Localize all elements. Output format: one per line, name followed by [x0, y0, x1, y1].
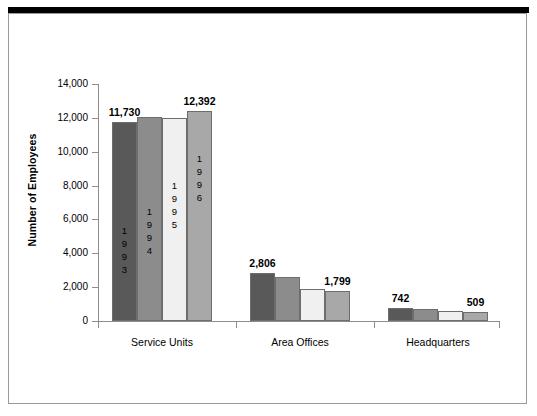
- bar-year-label-1993: 1993: [113, 224, 136, 276]
- value-label-area-offices-1996: 1,799: [308, 275, 368, 287]
- y-axis-tick: [92, 186, 99, 187]
- value-label-headquarters-1996: 509: [446, 296, 506, 308]
- bar-headquarters-1995[interactable]: [438, 311, 463, 321]
- bar-service-units-1993[interactable]: 1993: [112, 122, 137, 321]
- bar-service-units-1996[interactable]: 1996: [187, 111, 212, 321]
- value-label-service-units-1993: 11,730: [95, 106, 155, 118]
- x-axis-tick: [236, 321, 237, 328]
- year-digit: 9: [113, 237, 136, 250]
- bar-year-label-1996: 1996: [188, 152, 211, 204]
- category-label-headquarters: Headquarters: [368, 336, 508, 348]
- category-label-area-offices: Area Offices: [230, 336, 370, 348]
- bar-area-offices-1995[interactable]: [300, 289, 325, 321]
- year-digit: 9: [163, 192, 186, 205]
- bar-headquarters-1996[interactable]: [463, 312, 488, 321]
- y-axis-tick-label-text: 12,000: [57, 113, 88, 123]
- y-axis-tick-label: 12,000: [34, 113, 88, 123]
- year-digit: 1: [138, 205, 161, 218]
- y-axis-tick: [92, 287, 99, 288]
- bar-headquarters-1994[interactable]: [413, 309, 438, 321]
- year-digit: 9: [113, 250, 136, 263]
- year-digit: 9: [188, 165, 211, 178]
- year-digit: 4: [138, 244, 161, 257]
- y-axis-tick-label: 8,000: [34, 181, 88, 191]
- bar-year-label-1994: 1994: [138, 205, 161, 257]
- bar-service-units-1994[interactable]: 1994: [137, 117, 162, 321]
- bar-service-units-1995[interactable]: 1995: [162, 118, 187, 321]
- value-label-area-offices-1993: 2,806: [233, 257, 293, 269]
- x-axis-tick: [499, 321, 500, 328]
- bar-year-label-1995: 1995: [163, 179, 186, 231]
- year-digit: 9: [188, 178, 211, 191]
- year-digit: 9: [138, 218, 161, 231]
- value-label-headquarters-1993: 742: [371, 292, 431, 304]
- year-digit: 1: [113, 224, 136, 237]
- chart-figure: Number of Employees 14,00012,00010,0008,…: [0, 0, 537, 416]
- x-axis-tick: [374, 321, 375, 328]
- y-axis-tick-label: 4,000: [34, 248, 88, 258]
- y-axis-tick: [92, 84, 99, 85]
- year-digit: 1: [163, 179, 186, 192]
- year-digit: 9: [163, 205, 186, 218]
- y-axis-tick-label: 14,000: [34, 79, 88, 89]
- bar-area-offices-1994[interactable]: [275, 277, 300, 321]
- y-axis-tick-label-text: 8,000: [63, 181, 88, 191]
- year-digit: 5: [163, 218, 186, 231]
- bar-area-offices-1996[interactable]: [325, 291, 350, 321]
- year-digit: 3: [113, 263, 136, 276]
- y-axis-tick-label: 10,000: [34, 147, 88, 157]
- y-axis-tick-label-text: 6,000: [63, 214, 88, 224]
- year-digit: 9: [138, 231, 161, 244]
- y-axis-tick-label: 6,000: [34, 214, 88, 224]
- category-label-service-units: Service Units: [92, 336, 232, 348]
- y-axis-tick-label: 0: [34, 316, 88, 326]
- y-axis-tick-label-text: 0: [82, 316, 88, 326]
- value-label-service-units-1996: 12,392: [170, 95, 230, 107]
- year-digit: 6: [188, 191, 211, 204]
- y-axis-tick-label-text: 14,000: [57, 79, 88, 89]
- y-axis-tick: [92, 219, 99, 220]
- y-axis-tick-label: 2,000: [34, 282, 88, 292]
- y-axis-tick: [92, 152, 99, 153]
- y-axis-tick-label-text: 2,000: [63, 282, 88, 292]
- y-axis-tick: [92, 253, 99, 254]
- x-axis-tick: [98, 321, 99, 328]
- y-axis-tick-label-text: 4,000: [63, 248, 88, 258]
- bar-area-offices-1993[interactable]: [250, 273, 275, 321]
- bar-chart-plot-area: Number of Employees 14,00012,00010,0008,…: [0, 0, 537, 416]
- y-axis-tick-label-text: 10,000: [57, 147, 88, 157]
- x-axis-line: [98, 321, 500, 322]
- year-digit: 1: [188, 152, 211, 165]
- bar-headquarters-1993[interactable]: [388, 308, 413, 321]
